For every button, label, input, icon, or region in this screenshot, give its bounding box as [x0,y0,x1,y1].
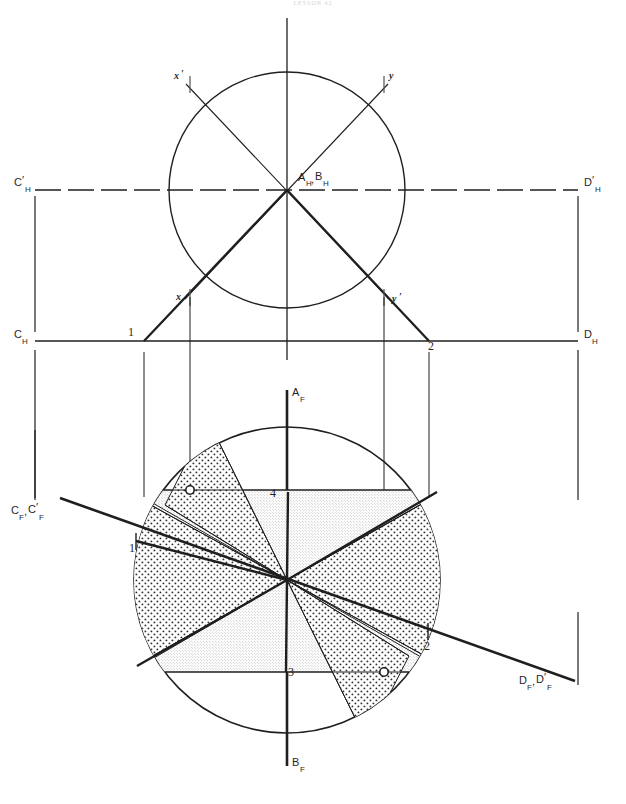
label-center-A: A [298,171,306,183]
label-a-f: A [292,386,300,398]
label-df-comma: , [532,675,535,687]
label-point-4-front: 4 [270,486,276,500]
label-d-prime-h-mark: ′ [592,174,594,186]
technical-drawing: x ′ y x y ′ A H , B H C ′ H D ′ H [0,0,626,804]
label-c-f: C [11,504,19,516]
label-x-bottom: x [175,291,181,302]
front-view-group: A F B F C F , C ′ F D F , D ′ F 1 [11,386,578,774]
label-point-2-top: 2 [428,339,434,353]
label-c-prime-f-mark: ′ [36,501,38,513]
label-center-B-sub: H [323,179,329,188]
label-y-prime-bottom: y [391,293,397,304]
label-point-3-front: 3 [288,665,294,679]
label-c-h-sub: H [22,337,28,346]
label-d-h-sub: H [592,337,598,346]
label-c-prime-f-sub: F [39,513,44,522]
label-c-prime-f: C [28,503,36,515]
label-point-2-front: 2 [424,639,430,653]
heavy-ray-center-3 [286,580,287,672]
label-c-prime-h: C [14,176,22,188]
label-center-comma: , [311,173,314,185]
label-y-prime-bottom-mark: ′ [399,291,402,302]
label-x-prime-top-mark: ′ [181,68,184,79]
label-x-prime-top: x [173,70,179,81]
label-b-f: B [292,756,299,768]
label-y-top: y [388,70,394,81]
label-d-prime-h-sub: H [595,185,601,194]
label-d-h: D [584,328,592,340]
label-cf-comma: , [24,505,27,517]
intersection-marker-lower [380,668,388,676]
intersection-marker-upper [186,486,194,494]
label-c-h: C [14,328,22,340]
label-c-prime-h-sub: H [25,185,31,194]
heavy-line-center-to-2 [287,190,429,341]
label-d-prime-f: D [536,673,544,685]
drawing-sheet: LESSON 42 [0,0,626,804]
label-c-prime-h-mark: ′ [22,174,24,186]
label-d-f: D [519,674,527,686]
label-point-1-top: 1 [128,325,134,339]
label-d-prime-h: D [584,176,592,188]
label-d-prime-f-mark: ′ [544,671,546,683]
label-point-1-front: 1 [129,541,135,555]
label-a-f-sub: F [300,395,305,404]
label-b-f-sub: F [300,765,305,774]
heavy-ray-center-4 [287,492,288,580]
heavy-line-1-to-center [144,190,287,341]
label-d-prime-f-sub: F [547,683,552,692]
label-center-B: B [315,170,322,182]
